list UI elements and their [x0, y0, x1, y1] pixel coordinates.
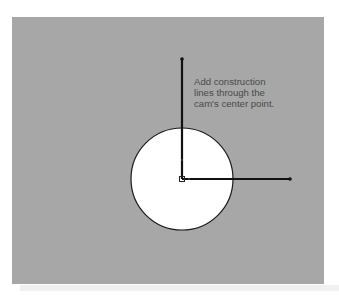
horizontal-line-endpoint[interactable] [288, 177, 292, 181]
annotation-callout: Add construction lines through the cam's… [194, 76, 304, 109]
vertical-line-endpoint[interactable] [180, 57, 184, 61]
sketch-drawing [0, 0, 339, 295]
line-midpoint-marker [181, 159, 183, 161]
cad-sketch-figure: Add construction lines through the cam's… [0, 0, 339, 295]
line-snap-marker [188, 178, 190, 180]
